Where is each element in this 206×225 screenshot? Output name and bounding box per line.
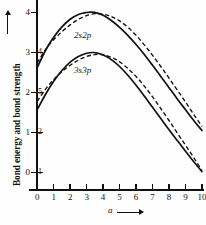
x-axis-title: a: [108, 205, 113, 215]
curve-label-3s3p: 3s3p: [73, 65, 92, 75]
plot-curves: [0, 0, 206, 225]
curve-3s3p-solid: [37, 52, 202, 171]
curve-label-2s2p: 2s2p: [73, 30, 92, 40]
chart-figure: Bond energy and bond strength 01234 1245…: [0, 0, 206, 225]
x-axis-arrow-icon: [117, 212, 143, 213]
